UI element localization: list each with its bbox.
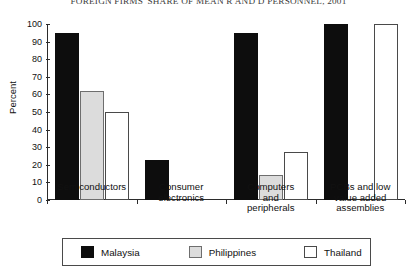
bar-group <box>137 24 227 200</box>
legend-swatch-malaysia <box>81 246 94 258</box>
bar-thailand <box>374 24 398 200</box>
x-tick <box>47 200 48 204</box>
bar-malaysia <box>324 24 348 200</box>
bar-malaysia <box>234 33 258 200</box>
legend-item-thailand: Thailand <box>304 246 362 258</box>
y-tick-label: 40 <box>32 125 42 134</box>
category-label-line: PCBs and low <box>304 182 417 193</box>
y-tick-label: 0 <box>37 196 42 205</box>
y-axis-title: Percent <box>7 68 18 128</box>
legend-label-thailand: Thailand <box>324 247 362 258</box>
y-tick-label: 70 <box>32 72 42 81</box>
plot-area: 0102030405060708090100 <box>47 24 405 200</box>
legend-swatch-philippines <box>189 246 202 258</box>
legend-label-malaysia: Malaysia <box>101 247 140 258</box>
y-tick-label: 80 <box>32 55 42 64</box>
legend-item-philippines: Philippines <box>189 246 256 258</box>
legend-swatch-thailand <box>304 246 317 258</box>
legend: Malaysia Philippines Thailand <box>62 238 371 266</box>
chart-title: FOREIGN FIRMS' SHARE OF MEAN R AND D PER… <box>0 0 417 6</box>
bar-group <box>316 24 406 200</box>
bar-group <box>47 24 137 200</box>
category-label: PCBs and lowvalue addedassemblies <box>304 182 417 214</box>
y-tick-label: 20 <box>32 160 42 169</box>
category-label-line: assemblies <box>304 203 417 214</box>
bar-chart: FOREIGN FIRMS' SHARE OF MEAN R AND D PER… <box>0 0 417 270</box>
y-tick-label: 60 <box>32 90 42 99</box>
legend-item-malaysia: Malaysia <box>81 246 140 258</box>
bar-group <box>226 24 316 200</box>
legend-label-philippines: Philippines <box>209 247 256 258</box>
y-tick-label: 90 <box>32 37 42 46</box>
y-tick-label: 30 <box>32 143 42 152</box>
bar-malaysia <box>55 33 79 200</box>
y-tick-label: 100 <box>27 20 42 29</box>
y-tick-label: 50 <box>32 108 42 117</box>
